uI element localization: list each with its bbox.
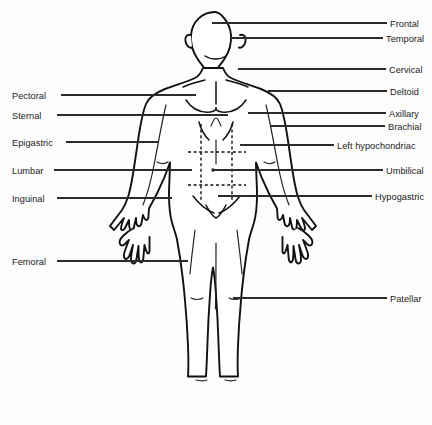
label-epigastric: Epigastric bbox=[12, 139, 53, 148]
label-brachial: Brachial bbox=[388, 123, 422, 132]
ear-left-outline bbox=[185, 35, 192, 48]
label-left-hypochondriac: Left hypochondriac bbox=[337, 142, 416, 151]
label-sternal: Sternal bbox=[12, 112, 41, 121]
label-patellar: Patellar bbox=[390, 295, 422, 304]
label-frontal: Frontal bbox=[390, 20, 419, 29]
label-inguinal: Inguinal bbox=[12, 195, 45, 204]
torso-outline bbox=[110, 68, 316, 377]
torso-group bbox=[110, 68, 316, 377]
anatomy-diagram: PectoralSternalEpigastricLumbarInguinalF… bbox=[0, 0, 432, 425]
ear-right-outline bbox=[239, 35, 246, 48]
label-temporal: Temporal bbox=[386, 35, 424, 44]
anatomy-figure-svg bbox=[0, 0, 432, 425]
label-hypogastric: Hypogastric bbox=[375, 193, 424, 202]
hand-left-outline bbox=[120, 228, 150, 264]
label-pectoral: Pectoral bbox=[12, 92, 46, 101]
inner-leg-gap bbox=[216, 243, 217, 309]
label-femoral: Femoral bbox=[12, 258, 46, 267]
label-axillary: Axillary bbox=[389, 110, 419, 119]
label-cervical: Cervical bbox=[389, 66, 423, 75]
ankle-line-right bbox=[225, 380, 236, 381]
ankle-line-left bbox=[196, 380, 207, 381]
label-umbilical: Umbilical bbox=[386, 167, 424, 176]
label-deltoid: Deltoid bbox=[390, 88, 419, 97]
label-lumbar: Lumbar bbox=[12, 167, 43, 176]
hand-right-outline bbox=[283, 228, 313, 264]
